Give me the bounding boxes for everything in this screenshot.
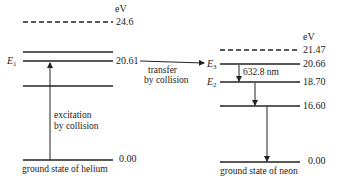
helium-value-20-61: 20.61 [116,55,139,66]
excitation-text-line2: by collision [54,121,99,131]
transfer-text-line2: by collision [144,75,189,85]
transfer-arrow [140,61,204,63]
neon-value-16-60: 16.60 [303,100,326,111]
transfer-text-line1: transfer [148,65,178,75]
helium-ground-caption: ground state of helium [22,164,108,174]
neon-e2-label: E2 [206,76,217,89]
energy-level-diagram: eV 24.6 E1 20.61 0.00 ground state of he… [0,0,342,184]
neon-value-18-70: 18.70 [303,76,326,87]
helium-e1-label: E1 [6,55,17,68]
helium-unit-label: eV [115,3,127,14]
neon-unit-label: eV [303,31,315,42]
wavelength-label: 632.8 nm [243,67,280,77]
neon-value-0: 0.00 [308,155,326,166]
excitation-text-line1: excitation [54,110,92,120]
neon-value-21-47: 21.47 [303,44,326,55]
neon-ground-caption: ground state of neon [220,166,298,176]
diagram-svg: eV 24.6 E1 20.61 0.00 ground state of he… [0,0,342,184]
helium-value-0: 0.00 [119,153,137,164]
neon-value-20-66: 20.66 [303,58,326,69]
helium-value-24-6: 24.6 [116,16,134,27]
neon-e3-label: E3 [206,58,217,71]
